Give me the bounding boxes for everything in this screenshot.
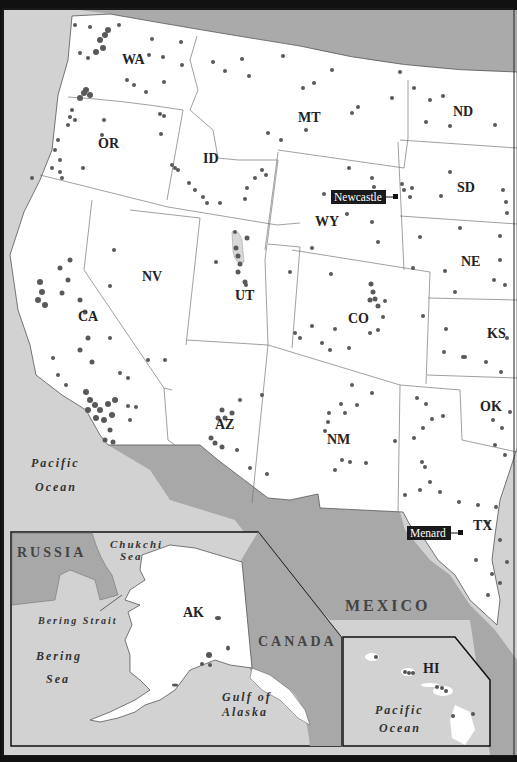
state-label-ca: CA: [78, 309, 99, 324]
state-label-id: ID: [203, 151, 219, 166]
state-label-nv: NV: [142, 269, 162, 284]
state-label-nd: ND: [453, 104, 473, 119]
state-label-ak: AK: [183, 605, 204, 620]
state-label-ut: UT: [235, 288, 255, 303]
water-label-pacific-hi: Pacific: [375, 703, 424, 717]
state-label-co: CO: [348, 311, 369, 326]
hawaii-inset: HI Pacific Ocean: [343, 637, 490, 746]
state-label-ne: NE: [461, 254, 480, 269]
country-label-russia: RUSSIA: [17, 545, 86, 560]
state-label-ks: KS: [487, 326, 506, 341]
city-marker-icon: [458, 530, 463, 535]
state-label-wa: WA: [122, 52, 145, 67]
feature-label-bering-strait: Bering Strait: [37, 615, 118, 626]
water-label-ocean-hi: Ocean: [379, 721, 421, 735]
state-label-tx: TX: [473, 518, 492, 533]
state-label-mt: MT: [298, 110, 321, 125]
water-label-bering: Bering: [35, 649, 82, 663]
state-label-az: AZ: [215, 417, 234, 432]
water-label-chukchi-sea: Sea: [120, 550, 143, 562]
state-label-ok: OK: [480, 399, 502, 414]
state-label-wy: WY: [315, 214, 339, 229]
state-label-or: OR: [98, 136, 120, 151]
city-label-menard: Menard: [410, 527, 446, 539]
water-label-bering-sea: Sea: [46, 672, 70, 686]
country-label-canada: CANADA: [258, 634, 337, 649]
water-label-chukchi: Chukchi: [110, 538, 163, 550]
country-label-mexico: MEXICO: [345, 597, 431, 614]
water-label-alaska: Alaska: [221, 705, 268, 719]
city-marker-icon: [393, 194, 398, 199]
western-us-map: Newcastle Menard WA OR ID MT ND SD WY NE…: [0, 0, 517, 762]
bottom-frame: [0, 756, 517, 762]
state-label-sd: SD: [457, 180, 475, 195]
water-label-gulf-of: Gulf of: [222, 690, 272, 704]
water-label-line: Ocean: [35, 480, 77, 494]
water-label-line: Pacific: [31, 456, 80, 470]
state-label-hi: HI: [423, 661, 439, 676]
state-label-nm: NM: [327, 432, 350, 447]
city-label-newcastle: Newcastle: [334, 191, 382, 203]
